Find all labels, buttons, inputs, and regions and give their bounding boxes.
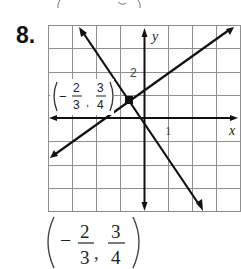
answer-y-numerator: 3 <box>111 221 121 242</box>
coordinate-graph: y x 1 2 − 2 3 , 3 4 − 2 3 , 3 4 <box>0 0 241 269</box>
point-label-x-numerator: 2 <box>73 81 80 95</box>
answer-expression: − 2 3 , 3 4 <box>48 217 139 268</box>
y-axis-label: y <box>150 29 159 44</box>
answer-separator: , <box>94 243 99 263</box>
y-tick-label-2: 2 <box>130 66 137 80</box>
answer-x-denominator: 3 <box>80 247 90 268</box>
y-axis-down-arrow-icon <box>142 202 148 211</box>
answer-x-numerator: 2 <box>80 221 90 242</box>
x-axis-label: x <box>228 123 236 138</box>
answer-sign: − <box>60 229 71 251</box>
previous-answer-fragment <box>58 0 141 8</box>
y-axis-up-arrow-icon <box>142 28 148 37</box>
point-label: − 2 3 , 3 4 <box>50 79 114 115</box>
problem-number: 8. <box>16 24 35 47</box>
answer-y-denominator: 4 <box>111 247 121 268</box>
point-label-y-denominator: 4 <box>97 98 104 112</box>
x-axis-right-arrow-icon <box>230 115 238 121</box>
x-tick-label-1: 1 <box>165 123 172 138</box>
point-label-sign: − <box>59 89 67 104</box>
point-label-x-denominator: 3 <box>73 98 80 112</box>
svg-text:,: , <box>86 96 89 108</box>
intersection-point <box>125 96 133 104</box>
axes <box>49 28 238 211</box>
x-axis-left-arrow-icon <box>49 115 57 121</box>
point-label-y-numerator: 3 <box>97 81 104 95</box>
